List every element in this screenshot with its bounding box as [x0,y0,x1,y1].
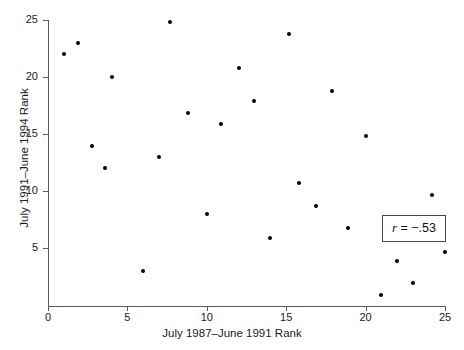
x-tick-label: 5 [115,311,139,323]
data-point [110,75,114,79]
data-point [219,122,223,126]
x-tick-label: 0 [36,311,60,323]
data-point [430,193,434,197]
data-point [364,134,368,138]
data-point [411,281,415,285]
data-point [62,52,66,56]
correlation-annotation: r = −.53 [382,215,446,242]
data-point [395,259,399,263]
data-point [330,89,334,93]
data-point [443,250,447,254]
data-point [297,181,301,185]
data-point [268,236,272,240]
data-point [205,212,209,216]
x-tick-label: 25 [433,311,457,323]
y-axis-title: July 1991–June 1994 Rank [18,48,30,268]
data-point [76,41,80,45]
data-point [379,293,383,297]
data-point [237,66,241,70]
chart-title-clipped [0,0,464,9]
x-tick-label: 15 [274,311,298,323]
data-point [90,144,94,148]
data-point [346,226,350,230]
y-tick-mark [43,191,48,192]
data-point [103,166,107,170]
y-tick-mark [43,20,48,21]
y-tick-mark [43,248,48,249]
x-axis-line [48,306,446,307]
data-point [168,20,172,24]
y-tick-mark [43,134,48,135]
y-tick-label: 25 [14,13,38,25]
data-point [186,111,190,115]
data-point [252,99,256,103]
x-axis-title: July 1987–June 1991 Rank [0,327,464,339]
data-point [314,204,318,208]
scatter-plot-figure: 510152025 0510152025 July 1987–June 1991… [0,0,464,350]
y-axis-line [48,20,49,306]
x-tick-label: 20 [354,311,378,323]
correlation-value: = −.53 [397,221,436,235]
data-point [141,269,145,273]
x-tick-label: 10 [195,311,219,323]
data-point [157,155,161,159]
y-tick-mark [43,77,48,78]
data-point [287,32,291,36]
